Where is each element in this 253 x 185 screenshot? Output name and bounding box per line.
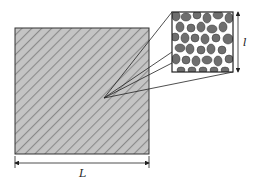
micro-inset xyxy=(171,11,233,73)
micro-dimension-arrow: l xyxy=(238,12,247,72)
label-macro-length: L xyxy=(78,167,86,180)
macro-domain xyxy=(15,28,149,154)
label-micro-length: l xyxy=(243,36,247,49)
diagram-canvas: l L xyxy=(0,0,253,185)
macro-dimension-arrow: L xyxy=(15,156,149,180)
